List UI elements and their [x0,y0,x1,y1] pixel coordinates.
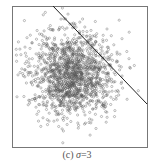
caption-value: =3 [81,149,92,160]
figure-caption: (c) σ=3 [0,149,154,160]
scatter-plot [0,0,154,148]
scatter-points [15,7,139,144]
caption-prefix: (c) [62,149,76,160]
